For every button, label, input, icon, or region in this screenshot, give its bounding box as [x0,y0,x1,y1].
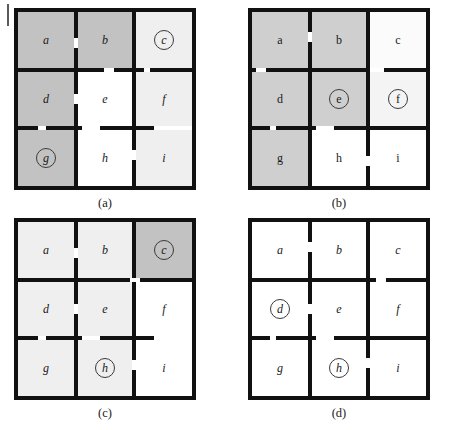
wall-segment [252,126,270,130]
cell-label-d: d [268,90,292,108]
cell-label-c: c [386,31,410,49]
wall-segment [366,222,370,278]
cell-label-d: d [34,300,58,318]
wall-segment [366,12,370,68]
wall-segment [74,282,78,304]
cell-label-c: c [386,241,410,259]
cell-label-d: d [268,300,292,318]
wall-segment [252,278,376,282]
cell-label-e: e [327,300,351,318]
cell-label-e: e [93,90,117,108]
wall-segment [18,278,130,282]
wall-segment [132,160,136,186]
wall-segment [266,68,370,72]
cell-label-h: h [93,359,117,377]
wall-segment [366,130,370,156]
cell-label-f: f [386,300,410,318]
cell-label-g: g [268,149,292,167]
wall-segment [132,72,136,126]
wall-segment [18,336,38,340]
cell-label-b: b [93,241,117,259]
wall-segment [140,278,192,282]
wall-segment [18,126,38,130]
cell-label-c: c [152,241,176,259]
cell-label-i: i [152,359,176,377]
wall-segment [276,336,316,340]
wall-segment [334,336,426,340]
wall-segment [132,370,136,396]
cell-label-i: i [386,359,410,377]
wall-segment [46,336,82,340]
wall-segment [366,368,370,396]
wall-segment [132,130,136,150]
cell-label-f: f [152,300,176,318]
wall-segment [308,340,312,396]
cell-label-d: d [34,90,58,108]
wall-segment [132,222,136,278]
wall-segment [366,72,370,126]
cell-label-b: b [327,241,351,259]
wall-segment [132,12,136,68]
wall-segment [308,12,312,32]
wall-segment [114,68,144,72]
cell-label-g: g [268,359,292,377]
wall-segment [252,68,256,72]
cell-label-g: g [34,149,58,167]
cell-label-b: b [93,31,117,49]
wall-segment [100,336,154,340]
cell-label-h: h [327,149,351,167]
panel-caption-d: (d) [248,406,430,421]
wall-segment [366,340,370,358]
wall-segment [74,340,78,396]
cell-label-a: a [268,241,292,259]
wall-segment [252,336,270,340]
floorplan-grid-b: abcdefghi [248,8,430,190]
wall-segment [46,126,82,130]
cell-label-c: c [152,31,176,49]
wall-segment [334,126,426,130]
cell-label-b: b [327,31,351,49]
wall-segment [74,72,78,94]
wall-segment [18,68,104,72]
floorplan-grid-c: abcdefghi [14,218,196,400]
wall-segment [74,12,78,38]
panel-caption-c: (c) [14,406,196,421]
panel-a: abcdefghi (a) [14,8,204,223]
wall-segment [384,68,426,72]
wall-segment [100,126,154,130]
cell-label-h: h [93,149,117,167]
cell-label-a: a [34,31,58,49]
wall-segment [132,282,136,336]
wall-segment [308,282,312,304]
wall-segment [386,278,426,282]
cell-label-e: e [327,90,351,108]
page-edge-tick-mark [7,4,9,26]
cell-label-a: a [34,241,58,259]
wall-segment [366,166,370,186]
panel-caption-a: (a) [14,196,196,211]
floorplan-grid-a: abcdefghi [14,8,196,190]
wall-segment [150,68,192,72]
wall-segment [276,126,316,130]
cell-label-a: a [268,31,292,49]
cell-label-i: i [152,149,176,167]
wall-segment [366,282,370,336]
panel-c: abcdefghi (c) [14,218,204,430]
cell-label-f: f [386,90,410,108]
floorplan-grid-d: abcdefghi [248,218,430,400]
panel-caption-b: (b) [248,196,430,211]
cell-label-h: h [327,359,351,377]
cell-label-e: e [93,300,117,318]
wall-segment [308,222,312,242]
wall-segment [74,130,78,186]
cell-label-i: i [386,149,410,167]
cell-label-g: g [34,359,58,377]
wall-segment [132,340,136,360]
panel-b: abcdefghi (b) [248,8,438,223]
figure-root: abcdefghi (a) abcdefghi (b) abcdefghi (c… [0,0,449,430]
wall-segment [74,222,78,248]
panel-d: abcdefghi (d) [248,218,438,430]
cell-label-f: f [152,90,176,108]
